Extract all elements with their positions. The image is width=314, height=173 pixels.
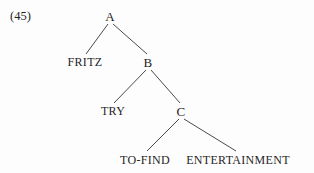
example-number-label: (45)	[10, 10, 31, 23]
tree-node-a: A	[105, 10, 115, 23]
tree-node-c: C	[177, 105, 186, 118]
tree-node-try: TRY	[101, 105, 125, 117]
tree-edge-c-to-entertainment	[184, 119, 236, 151]
tree-edge-b-to-c	[151, 70, 180, 103]
tree-node-entertainment: ENTERTAINMENT	[186, 154, 290, 166]
tree-edge-b-to-try	[114, 70, 146, 103]
tree-edges-layer	[0, 0, 314, 173]
tree-edge-a-to-b	[113, 24, 147, 54]
tree-edge-a-to-fritz	[86, 24, 108, 54]
tree-diagram-page: (45) AFRITZBTRYCTO-FINDENTERTAINMENT	[0, 0, 314, 173]
tree-node-to-find: TO-FIND	[120, 154, 170, 166]
tree-edge-c-to-to-find	[147, 119, 179, 151]
tree-node-fritz: FRITZ	[68, 56, 103, 68]
tree-node-b: B	[144, 56, 153, 69]
